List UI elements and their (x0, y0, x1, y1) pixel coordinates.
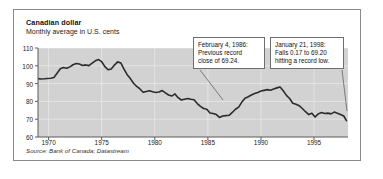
annotation-1986-line-3: close of 69.24. (198, 57, 260, 65)
x-tick-label-1995: 1995 (301, 139, 327, 146)
chart-title: Canadian dollar (26, 18, 81, 27)
annotation-1986: February 4, 1986: Previous record close … (193, 37, 265, 69)
y-tick-label-100: 100 (17, 62, 33, 69)
y-tick-label-60: 60 (17, 134, 33, 141)
x-tick-label-1975: 1975 (89, 139, 115, 146)
annotation-1998: January 21, 1998: Falls 0.17 to 69.20 hi… (270, 37, 344, 69)
x-tick-label-1990: 1990 (248, 139, 274, 146)
annotation-1986-line-2: Previous record (198, 49, 260, 57)
x-tick-label-1980: 1980 (142, 139, 168, 146)
annotation-1998-line-3: hitting a record low. (275, 57, 339, 65)
y-tick-label-80: 80 (17, 98, 33, 105)
annotation-1986-line-1: February 4, 1986: (198, 41, 260, 49)
x-tick-label-1970: 1970 (36, 139, 62, 146)
y-tick-label-70: 70 (17, 116, 33, 123)
y-tick-label-110: 110 (17, 45, 33, 52)
annotation-1998-line-1: January 21, 1998: (275, 41, 339, 49)
chart-subtitle: Monthly average in U.S. cents (26, 28, 119, 35)
x-tick-label-1985: 1985 (195, 139, 221, 146)
source-note: Source: Bank of Canada; Datastream (26, 147, 129, 154)
annotation-1998-line-2: Falls 0.17 to 69.20 (275, 49, 339, 57)
y-tick-label-90: 90 (17, 80, 33, 87)
chart-card: Canadian dollar Monthly average in U.S. … (13, 9, 361, 161)
